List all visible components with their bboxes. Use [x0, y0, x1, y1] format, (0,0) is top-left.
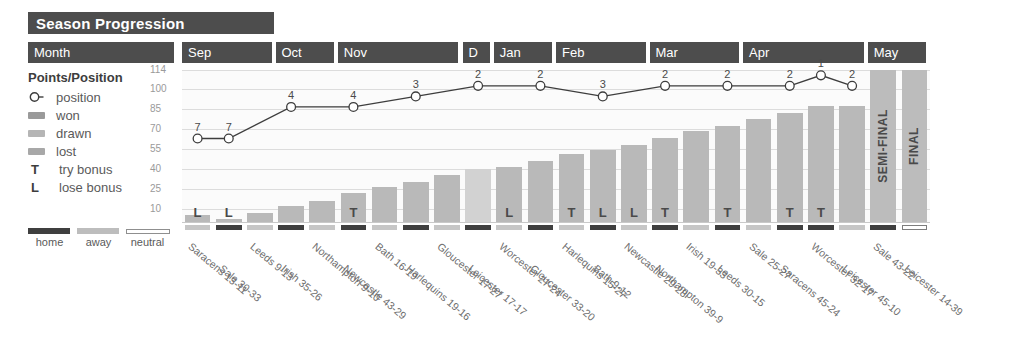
position-value-label: 2 — [475, 68, 481, 80]
month-header-row: Month SepOctNovDJanFebMarAprMay — [0, 42, 1028, 63]
position-marker — [723, 81, 732, 90]
x-axis-label: Leicester 45-10 — [840, 262, 903, 318]
y-tick-label: 114 — [150, 64, 176, 75]
position-marker — [661, 81, 670, 90]
x-axis-label: Saracens 45-24 — [778, 262, 843, 319]
position-value-label: 4 — [350, 89, 356, 101]
month-header-oct: Oct — [276, 42, 334, 63]
position-value-label: 2 — [787, 68, 793, 80]
venue-indicator-home — [808, 225, 834, 230]
y-tick-label: 100 — [150, 83, 176, 94]
position-line — [182, 70, 930, 222]
legend-label-lost: lost — [54, 144, 76, 159]
position-value-label: 7 — [195, 121, 201, 133]
month-header-jan: Jan — [494, 42, 552, 63]
venue-indicator-away — [372, 225, 398, 230]
venue-indicator-away — [434, 225, 460, 230]
position-marker — [536, 81, 545, 90]
month-header-mar: Mar — [650, 42, 740, 63]
plot-area: 114100857055402510 SEMI-FINALFINALLLTLTL… — [182, 70, 930, 222]
axis-baseline — [182, 222, 930, 223]
venue-indicator-away — [247, 225, 273, 230]
legend-label-lose-bonus: lose bonus — [57, 180, 122, 195]
venue-indicator-home — [278, 225, 304, 230]
venue-indicator-home — [777, 225, 803, 230]
position-marker — [817, 71, 826, 80]
lost-swatch-icon — [28, 148, 54, 155]
venue-indicator-home — [465, 225, 491, 230]
legend-label-drawn: drawn — [54, 126, 91, 141]
venue-indicator-home — [403, 225, 429, 230]
y-tick-label: 25 — [150, 183, 176, 194]
won-swatch-icon — [28, 112, 54, 119]
x-axis-label: Irish 35-26 — [279, 262, 325, 303]
venue-indicator-neutral — [902, 225, 928, 230]
position-marker — [193, 134, 202, 143]
x-axis-labels: Saracens 13-11Sale 30-33Leeds 9-13Irish … — [182, 240, 1028, 337]
neutral-swatch-icon — [126, 229, 170, 234]
drawn-swatch-icon — [28, 130, 54, 137]
position-value-label: 2 — [849, 68, 855, 80]
position-value-label: 2 — [662, 68, 668, 80]
month-header-nov: Nov — [338, 42, 459, 63]
venue-label-away: away — [77, 236, 120, 248]
y-tick-label: 10 — [150, 203, 176, 214]
venue-label-neutral: neutral — [126, 236, 169, 248]
y-tick-label: 55 — [150, 143, 176, 154]
try-bonus-icon: T — [28, 162, 57, 177]
venue-indicator-away — [746, 225, 772, 230]
x-axis-label: Leicester 17-17 — [466, 262, 529, 318]
position-value-label: 3 — [413, 78, 419, 90]
lose-bonus-icon: L — [28, 180, 57, 195]
month-row-label: Month — [28, 42, 174, 63]
y-tick-label: 40 — [150, 163, 176, 174]
month-header-apr: Apr — [743, 42, 864, 63]
position-marker — [224, 134, 233, 143]
venue-legend-labels: home away neutral — [28, 236, 180, 248]
y-tick-label: 70 — [150, 123, 176, 134]
position-value-label: 2 — [537, 68, 543, 80]
venue-indicator-home — [216, 225, 242, 230]
venue-indicator-away — [559, 225, 585, 230]
month-header-d: D — [463, 42, 490, 63]
month-header-sep: Sep — [182, 42, 272, 63]
page-title: Season Progression — [28, 12, 274, 34]
away-swatch-icon — [77, 228, 119, 234]
x-axis-label: Bath 9-12 — [591, 262, 634, 300]
position-marker — [848, 81, 857, 90]
venue-indicator-home — [652, 225, 678, 230]
venue-indicator-away — [839, 225, 865, 230]
position-value-label: 4 — [288, 89, 294, 101]
position-marker — [287, 103, 296, 112]
position-value-label: 1 — [818, 57, 824, 69]
venue-indicator-away — [683, 225, 709, 230]
x-axis-label: Leicester 14-39 — [903, 262, 966, 318]
position-marker — [785, 81, 794, 90]
home-swatch-icon — [28, 228, 70, 234]
venue-indicator-home — [590, 225, 616, 230]
x-axis-label: Leeds 30-15 — [716, 262, 768, 309]
venue-indicator-away — [309, 225, 335, 230]
venue-indicator-away — [621, 225, 647, 230]
position-marker — [474, 81, 483, 90]
venue-indicator-home — [870, 225, 896, 230]
position-value-label: 3 — [600, 78, 606, 90]
position-value-label: 7 — [226, 121, 232, 133]
venue-indicator-home — [341, 225, 367, 230]
venue-label-home: home — [28, 236, 71, 248]
legend-label-won: won — [54, 108, 80, 123]
position-marker — [598, 92, 607, 101]
position-marker — [349, 103, 358, 112]
venue-indicator-home — [528, 225, 554, 230]
position-marker-icon — [28, 91, 54, 103]
legend-label-position: position — [54, 90, 101, 105]
month-header-may: May — [868, 42, 926, 63]
venue-legend: home away neutral — [28, 228, 180, 248]
month-header-feb: Feb — [556, 42, 646, 63]
venue-indicator-home — [715, 225, 741, 230]
season-progression-chart: Season Progression Month SepOctNovDJanFe… — [0, 0, 1028, 337]
position-value-label: 2 — [724, 68, 730, 80]
venue-indicator-away — [185, 225, 211, 230]
venue-swatches — [28, 228, 180, 234]
y-tick-label: 85 — [150, 103, 176, 114]
